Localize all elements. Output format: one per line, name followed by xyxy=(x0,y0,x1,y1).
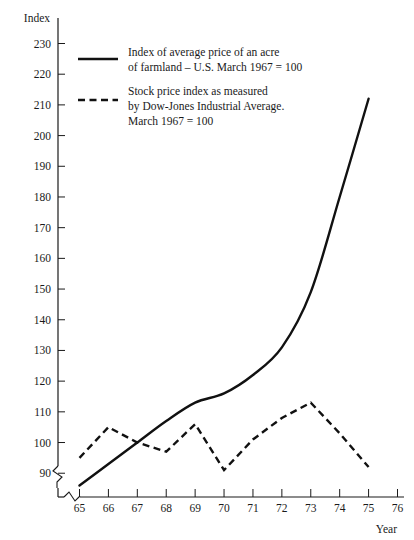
y-tick-label: 110 xyxy=(34,406,51,418)
series-line-stock-price-index xyxy=(80,403,369,471)
y-tick-label: 170 xyxy=(34,222,52,234)
y-tick-label: 160 xyxy=(34,252,52,264)
y-tick-label: 100 xyxy=(34,437,52,449)
x-axis-title: Year xyxy=(376,523,397,535)
x-axis-break-icon xyxy=(64,492,80,501)
y-axis-break-icon xyxy=(53,466,62,488)
y-tick-label: 150 xyxy=(34,283,52,295)
y-tick-label: 200 xyxy=(34,130,52,142)
chart-legend: Index of average price of an acreof farm… xyxy=(78,46,302,127)
legend-label-stock-line2: by Dow-Jones Industrial Average. xyxy=(128,100,284,113)
x-tick-label: 70 xyxy=(218,502,230,514)
chart-container: 9010011012013014015016017018019020021022… xyxy=(0,0,414,540)
x-tick-label: 73 xyxy=(305,502,317,514)
legend-label-stock-line3: March 1967 = 100 xyxy=(128,115,214,127)
y-tick-label: 180 xyxy=(34,191,52,203)
legend-label-stock-line1: Stock price index as measured xyxy=(128,85,268,98)
y-tick-label: 140 xyxy=(34,314,52,326)
y-axis-title: Index xyxy=(24,12,50,24)
y-tick-label: 120 xyxy=(34,375,52,387)
x-axis: 656667686970717273747576 xyxy=(58,489,404,514)
y-tick-label: 90 xyxy=(40,467,52,479)
x-tick-label: 71 xyxy=(247,502,259,514)
line-chart: 9010011012013014015016017018019020021022… xyxy=(0,0,414,540)
x-tick-label: 69 xyxy=(189,502,201,514)
y-axis: 9010011012013014015016017018019020021022… xyxy=(34,18,65,497)
x-tick-label: 75 xyxy=(363,502,375,514)
y-tick-label: 130 xyxy=(34,344,52,356)
x-tick-label: 72 xyxy=(276,502,288,514)
x-tick-label: 74 xyxy=(334,502,346,514)
x-tick-label: 66 xyxy=(103,502,115,514)
y-tick-label: 210 xyxy=(34,99,52,111)
y-tick-label: 230 xyxy=(34,38,52,50)
x-tick-label: 65 xyxy=(74,502,86,514)
legend-label-farmland-line1: Index of average price of an acre xyxy=(128,46,279,59)
x-tick-label: 68 xyxy=(160,502,172,514)
y-tick-label: 190 xyxy=(34,160,52,172)
data-series-group xyxy=(80,99,369,486)
x-tick-label: 67 xyxy=(132,502,144,514)
x-tick-label: 76 xyxy=(392,502,404,514)
y-tick-label: 220 xyxy=(34,68,52,80)
legend-label-farmland-line2: of farmland – U.S. March 1967 = 100 xyxy=(128,61,302,73)
series-line-farmland-index xyxy=(80,99,369,486)
